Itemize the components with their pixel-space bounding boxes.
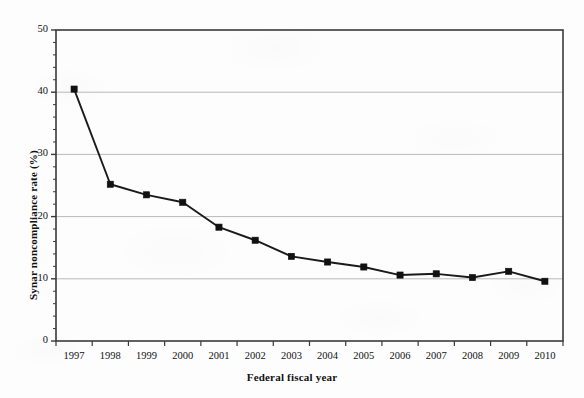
x-tick-label-2007: 2007 bbox=[418, 350, 454, 361]
x-tick-label-2008: 2008 bbox=[454, 350, 490, 361]
data-point-marker-1998 bbox=[107, 181, 113, 187]
x-axis-title: Federal fiscal year bbox=[0, 371, 584, 383]
data-point-marker-2009 bbox=[506, 268, 512, 274]
x-tick-label-2004: 2004 bbox=[310, 350, 346, 361]
y-tick-label-10: 10 bbox=[18, 272, 48, 283]
data-point-marker-2005 bbox=[361, 264, 367, 270]
line-chart-plot bbox=[0, 0, 584, 398]
y-tick-label-50: 50 bbox=[18, 23, 48, 34]
data-point-marker-2008 bbox=[469, 274, 475, 280]
data-point-marker-2007 bbox=[433, 271, 439, 277]
data-point-marker-2001 bbox=[216, 224, 222, 230]
y-tick-label-30: 30 bbox=[18, 147, 48, 158]
y-tick-label-40: 40 bbox=[18, 85, 48, 96]
plot-frame bbox=[56, 30, 563, 341]
x-tick-label-1997: 1997 bbox=[56, 350, 92, 361]
x-tick-label-1999: 1999 bbox=[128, 350, 164, 361]
data-line-synar-noncompliance-rate bbox=[74, 89, 545, 281]
x-tick-label-2003: 2003 bbox=[273, 350, 309, 361]
data-point-marker-2002 bbox=[252, 237, 258, 243]
x-tick-label-2009: 2009 bbox=[491, 350, 527, 361]
data-point-marker-1999 bbox=[143, 192, 149, 198]
data-point-marker-1997 bbox=[71, 86, 77, 92]
x-tick-label-1998: 1998 bbox=[92, 350, 128, 361]
x-tick-label-2005: 2005 bbox=[346, 350, 382, 361]
data-point-marker-2003 bbox=[288, 253, 294, 259]
x-tick-label-2001: 2001 bbox=[201, 350, 237, 361]
data-point-marker-2004 bbox=[325, 259, 331, 265]
data-point-marker-2000 bbox=[180, 199, 186, 205]
x-tick-label-2000: 2000 bbox=[165, 350, 201, 361]
x-tick-label-2006: 2006 bbox=[382, 350, 418, 361]
x-tick-label-2002: 2002 bbox=[237, 350, 273, 361]
figure-container: Synar noncompliance rate (%) Federal fis… bbox=[0, 0, 584, 398]
y-tick-label-20: 20 bbox=[18, 210, 48, 221]
data-point-marker-2006 bbox=[397, 272, 403, 278]
data-point-marker-2010 bbox=[542, 278, 548, 284]
x-tick-label-2010: 2010 bbox=[527, 350, 563, 361]
y-tick-label-0: 0 bbox=[18, 334, 48, 345]
